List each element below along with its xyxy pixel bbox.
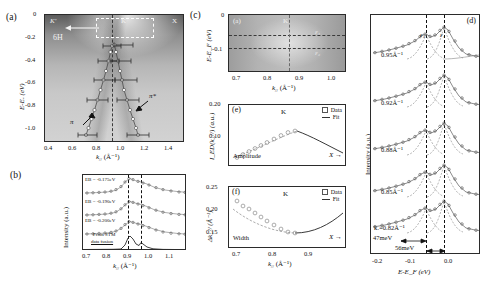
panel-d-plot: (d) xyxy=(370,14,480,254)
panel-d-xtick-0: -0.2 xyxy=(372,257,382,264)
panel-b-stm-label-line1: From STM xyxy=(93,232,115,237)
panel-e-legend-fit-icon xyxy=(322,117,330,118)
panel-f-x-text: X xyxy=(329,233,333,241)
panel-c-ytick-1: -0.1 xyxy=(212,45,222,52)
panel-b-label: (b) xyxy=(10,170,21,180)
panel-c-eps1-label: ε₁ xyxy=(315,28,320,36)
panel-c-label: (c) xyxy=(190,10,201,20)
panel-a-xtick-0: 0.4 xyxy=(44,144,52,151)
panel-c-eps2-label: ε₂ xyxy=(315,49,320,57)
panel-c-k-dashed xyxy=(289,15,290,71)
panel-c-ytick-0: 0 xyxy=(221,11,224,18)
panel-c-xlabel-unit: (Å⁻¹) xyxy=(280,84,296,92)
panel-e-ytick-1: 0.10 xyxy=(209,132,220,139)
panel-b-xlabel: k// (Å⁻¹) xyxy=(113,262,136,271)
panel-d-eps2-label: ε₂ xyxy=(420,31,425,39)
panel-d-measure-2: 56meV xyxy=(395,244,414,251)
panel-f-legend-fit-icon xyxy=(322,199,330,200)
panel-b-curve-label-1: EB = -0.190eV xyxy=(85,199,115,204)
panel-a-xtick-1: 0.6 xyxy=(68,144,76,151)
panel-f-legend-data: Data xyxy=(331,189,342,195)
panel-a-xtick-5: 1.4 xyxy=(164,144,172,151)
panel-a-xtick-2: 0.8 xyxy=(92,144,100,151)
panel-d-eps1-label: ε₁ xyxy=(440,31,445,39)
panel-c-plot: (a) K ε₁ ε₂ xyxy=(228,14,346,72)
panel-b-curve-label-0: EB = -0.175eV xyxy=(85,177,115,182)
panel-c-inset-label: (a) xyxy=(233,17,241,25)
panel-c-xtick-3: 1.0 xyxy=(327,74,335,81)
panel-e-legend: Data Fit xyxy=(322,107,342,121)
panel-d-xtick-2: 0.0 xyxy=(444,257,452,264)
panel-d-edc-label-0: 0.95Å⁻¹ xyxy=(381,51,403,59)
panel-f-x-label: X → xyxy=(329,233,342,241)
panel-b-xlabel-unit: (Å⁻¹) xyxy=(121,262,137,270)
panel-e-legend-data-icon xyxy=(322,107,328,113)
panel-f-xlabel: k// (Å⁻¹) xyxy=(268,260,291,269)
panel-f-legend-data-icon xyxy=(322,189,328,195)
panel-e-plot: (e) K Amplitude Data Fit X → xyxy=(228,104,346,166)
panel-b-xtick-0: 0.7 xyxy=(82,252,90,259)
figure-root: (a) E-Eₓ (eV) K' K X 6H xyxy=(0,0,486,290)
panel-e-caption: Amplitude xyxy=(233,152,261,159)
panel-f-legend: Data Fit xyxy=(322,189,342,203)
panel-a-pi-label: π xyxy=(70,118,74,126)
panel-b-xtick-2: 0.9 xyxy=(123,252,131,259)
panel-f-xlabel-unit: (Å⁻¹) xyxy=(276,260,292,268)
panel-f-ylabel: Δk_// (Å⁻¹) xyxy=(206,211,214,242)
panel-f-legend-fit: Fit xyxy=(333,196,340,202)
panel-b-ylabel: Intensity (a.u.) xyxy=(62,207,70,248)
panel-a-xtick-4: 1.2 xyxy=(140,144,148,151)
panel-c-eps2-line xyxy=(229,48,345,49)
panel-f-caption: Width xyxy=(233,234,249,241)
panel-a-ytick-3: -0.6 xyxy=(25,78,35,85)
panel-d-xtick-1: -0.1 xyxy=(405,257,415,264)
panel-e-x-label: X → xyxy=(329,151,342,159)
panel-a-plot: K' K X 6H xyxy=(44,14,184,142)
panel-f-xtick-2: 0.9 xyxy=(304,250,312,257)
panel-e-x-text: X xyxy=(329,151,333,159)
panel-a-pistar-label: π* xyxy=(149,92,156,100)
panel-a-label: (a) xyxy=(6,12,17,22)
panel-d-edc-label-1: 0.92Å⁻¹ xyxy=(381,99,403,107)
panel-c-xtick-1: 0.8 xyxy=(263,74,271,81)
panel-f-xlabel-sub: // xyxy=(271,264,274,269)
panel-a-dispersion-overlay xyxy=(45,15,184,142)
panel-e-legend-data: Data xyxy=(331,107,342,113)
panel-f-ytick-1: 0.20 xyxy=(206,205,217,212)
panel-a-ytick-4: -0.8 xyxy=(25,101,35,108)
panel-b-xlabel-sub: // xyxy=(116,266,119,271)
panel-b-stm-label-line2: data fusion xyxy=(91,239,113,244)
panel-f-ytick-2: 0.15 xyxy=(206,228,217,235)
panel-c-xlabel-sub: // xyxy=(275,88,278,93)
panel-e-legend-fit: Fit xyxy=(333,114,340,120)
panel-c-xtick-2: 0.9 xyxy=(295,74,303,81)
panel-a-ytick-5: -1.0 xyxy=(25,124,35,131)
panel-b-curve-label-2: EB = -0.200eV xyxy=(85,218,115,223)
panel-b-plot: EB = -0.175eV EB = -0.190eV EB = -0.200e… xyxy=(82,174,186,250)
panel-c-eps1-line xyxy=(229,35,345,36)
panel-f-ytick-0: 0.25 xyxy=(206,183,217,190)
panel-f-xtick-1: 0.8 xyxy=(268,250,276,257)
panel-f-xtick-0: 0.7 xyxy=(232,250,240,257)
panel-d-measure-1: 47meV xyxy=(373,234,392,241)
panel-b-xtick-3: 1.0 xyxy=(144,252,152,259)
panel-a-ytick-2: -0.4 xyxy=(25,56,35,63)
panel-a-xlabel: k// (Å⁻¹) xyxy=(96,153,119,162)
panel-f-plot: (f) K Width Data Fit X → xyxy=(228,186,346,248)
panel-c-k-label: K xyxy=(283,17,288,25)
panel-e-ytick-0: 0.20 xyxy=(209,100,220,107)
panel-a-xlabel-sub: // xyxy=(99,157,102,162)
panel-d-edc-label-3: 0.85Å⁻¹ xyxy=(381,188,403,196)
panel-a-xtick-3: 1.0 xyxy=(116,144,124,151)
panel-a-ytick-1: -0.2 xyxy=(25,33,35,40)
panel-d-edc-label-4: kₓ=0.82Å⁻¹ xyxy=(374,224,405,232)
panel-d-edc-label-2: 0.88Å⁻¹ xyxy=(381,146,403,154)
panel-d-xlabel: E-E_F (eV) xyxy=(398,268,430,276)
panel-b-xtick-4: 1.1 xyxy=(165,252,173,259)
panel-a-xlabel-unit: (Å⁻¹) xyxy=(104,153,120,161)
panel-c-xtick-0: 0.7 xyxy=(232,74,240,81)
panel-a-ytick-0: 0 xyxy=(33,10,36,17)
panel-b-xtick-1: 0.8 xyxy=(102,252,110,259)
panel-c-xlabel: k// (Å⁻¹) xyxy=(272,84,295,93)
